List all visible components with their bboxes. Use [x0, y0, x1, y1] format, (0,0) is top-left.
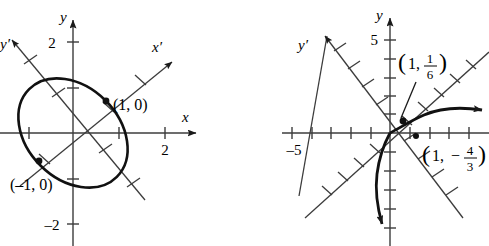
left-ytick-label-2: 2 — [48, 35, 56, 51]
right-xtick-label-neg5: –5 — [286, 142, 302, 158]
paren-close-1: ) — [439, 49, 447, 75]
left-x-axis-label: x — [181, 109, 189, 125]
left-point-label-neg1-0: (–1, 0) — [10, 176, 53, 194]
right-axis-x-prime — [305, 52, 489, 218]
panel-left: y x x′ y′ 2 –2 2 (1, 0) (–1, 0) — [0, 9, 196, 246]
point-1-one-sixth — [400, 118, 407, 125]
label-minus-sign-2: − — [451, 147, 460, 164]
point-neg1-0 — [36, 158, 43, 165]
left-y-axis-label: y — [58, 9, 67, 25]
right-y-axis-label: y — [374, 7, 383, 23]
left-ytick-label-neg2: –2 — [44, 217, 60, 233]
figure-container: y x x′ y′ 2 –2 2 (1, 0) (–1, 0) — [0, 0, 489, 246]
point-1-0 — [103, 98, 110, 105]
parabola-lower-branch — [376, 133, 390, 224]
paren-open-2: ( — [422, 141, 430, 167]
left-y-prime-axis-label: y′ — [0, 36, 11, 52]
point-1-neg-four-thirds — [413, 133, 419, 139]
fraction-numerator-2: 4 — [467, 143, 474, 158]
left-axis-x — [0, 127, 196, 139]
left-xtick-label-2: 2 — [161, 142, 169, 158]
fraction-denominator-1: 6 — [427, 67, 434, 82]
math-figure-svg: y x x′ y′ 2 –2 2 (1, 0) (–1, 0) — [0, 0, 489, 246]
left-x-prime-axis-label: x′ — [151, 39, 163, 55]
right-point-label-1-neg-four-thirds: ( 1, − 4 3 ) — [422, 141, 486, 174]
label-x-value-1: 1, — [408, 55, 420, 72]
right-axis-x — [282, 127, 489, 139]
fraction-numerator-1: 1 — [427, 51, 434, 66]
right-ytick-label-5: 5 — [371, 32, 379, 48]
label-x-value-2: 1, — [432, 147, 444, 164]
paren-open-1: ( — [398, 49, 406, 75]
leader-line-point1 — [401, 82, 416, 118]
paren-close-2: ) — [478, 141, 486, 167]
left-point-label-1-0: (1, 0) — [113, 96, 148, 114]
fraction-denominator-2: 3 — [467, 159, 474, 174]
right-point-label-1-one-sixth: ( 1, 1 6 ) — [398, 49, 447, 82]
panel-right: y y′ 5 –5 ( 1, 1 6 ) ( 1, − 4 3 ) — [282, 7, 489, 246]
right-y-prime-axis-label: y′ — [296, 37, 309, 53]
